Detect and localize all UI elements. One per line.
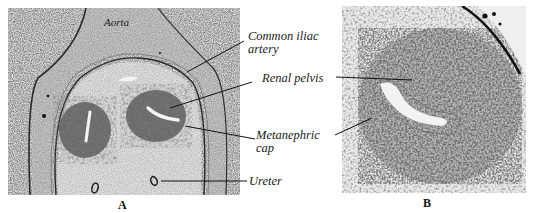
label-renal-pelvis-text: Renal pelvis	[262, 72, 323, 85]
histology-image-a	[8, 8, 240, 195]
aorta-label: Aorta	[104, 16, 129, 28]
histology-image-b	[342, 6, 526, 193]
label-metanephric-line2: cap	[256, 142, 320, 155]
panel-letter-a: A	[118, 198, 127, 213]
micrograph-panel-a: Aorta	[8, 8, 240, 195]
panel-letter-b: B	[423, 196, 431, 211]
label-ureter-text: Ureter	[249, 175, 282, 188]
micrograph-panel-b	[342, 6, 526, 193]
label-renal-pelvis: Renal pelvis	[262, 72, 323, 85]
label-common-iliac-artery: Common iliac artery	[248, 30, 318, 56]
label-metanephric-cap: Metanephric cap	[256, 129, 320, 155]
label-ureter: Ureter	[249, 175, 282, 188]
label-common-iliac-line2: artery	[248, 43, 318, 56]
